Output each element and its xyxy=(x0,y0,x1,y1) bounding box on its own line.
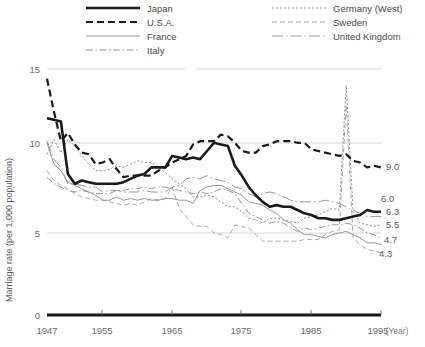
legend-item-germany: Germany (West) xyxy=(272,3,403,14)
x-axis-labels: 1947 1955 1965 1975 1985 1995 (Year) xyxy=(36,325,408,336)
series-line-germany-west xyxy=(47,85,381,226)
legend-label-usa: U.S.A. xyxy=(147,17,174,28)
y-tick-label-5: 5 xyxy=(35,228,40,239)
end-label-germany: 5.5 xyxy=(386,219,399,230)
series-line-japan xyxy=(47,118,381,220)
x-tick-label-1975: 1975 xyxy=(230,325,251,336)
legend-label-italy: Italy xyxy=(147,45,165,56)
chart-series-layer xyxy=(47,79,381,253)
series-line-sweden xyxy=(47,105,381,253)
series-line-italy xyxy=(47,177,381,238)
legend-item-japan: Japan xyxy=(86,3,173,14)
y-tick-label-10: 10 xyxy=(29,138,40,149)
legend-item-uk: United Kingdom xyxy=(272,31,401,42)
x-tick-label-1947: 1947 xyxy=(36,325,57,336)
end-label-japan: 6.3 xyxy=(386,206,399,217)
y-axis-title: Marriage rate (per 1,000 population) xyxy=(4,158,14,302)
legend-label-uk: United Kingdom xyxy=(333,31,401,42)
y-tick-label-15: 15 xyxy=(29,64,40,75)
x-axis-unit-label: (Year) xyxy=(386,326,409,336)
x-tick-label-1965: 1965 xyxy=(161,325,182,336)
end-label-uk: 6.0 xyxy=(381,193,394,204)
x-tick-label-1985: 1985 xyxy=(300,325,321,336)
series-end-labels: 9.0 6.0 6.3 5.5 4.7 4.3 xyxy=(379,161,399,259)
x-axis xyxy=(47,310,381,315)
end-label-france: 4.3 xyxy=(379,248,392,259)
chart-legend: Japan U.S.A. France Italy Germany (West)… xyxy=(86,3,403,56)
series-line-u-s-a xyxy=(47,79,381,177)
legend-item-italy: Italy xyxy=(86,45,165,56)
legend-item-usa: U.S.A. xyxy=(86,17,174,28)
end-label-usa: 9.0 xyxy=(386,161,399,172)
end-label-italy: 4.7 xyxy=(384,234,397,245)
legend-item-france: France xyxy=(86,31,177,42)
y-tick-label-0: 0 xyxy=(35,310,40,321)
chart-gridlines xyxy=(47,69,381,233)
legend-item-sweden: Sweden xyxy=(272,17,367,28)
legend-label-sweden: Sweden xyxy=(333,17,367,28)
legend-label-france: France xyxy=(147,31,177,42)
series-line-united-kingdom xyxy=(47,141,381,216)
legend-label-germany: Germany (West) xyxy=(333,3,403,14)
legend-label-japan: Japan xyxy=(147,3,173,14)
x-tick-label-1955: 1955 xyxy=(91,325,112,336)
y-axis-labels: 15 10 5 0 xyxy=(29,64,40,321)
marriage-rate-line-chart: Japan U.S.A. France Italy Germany (West)… xyxy=(0,0,425,347)
